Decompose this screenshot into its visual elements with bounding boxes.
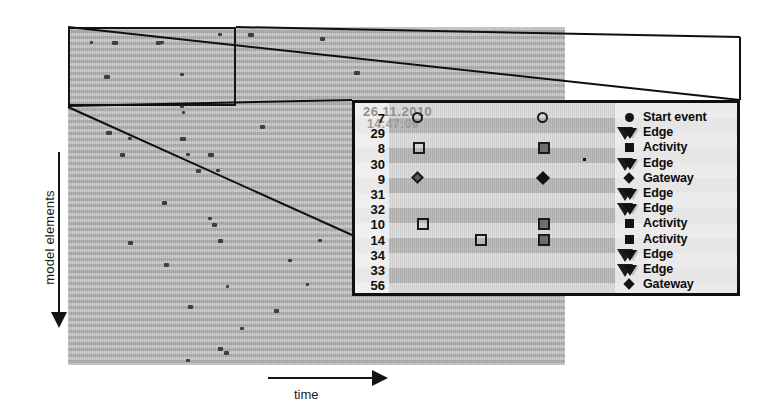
overview-point (318, 239, 322, 242)
legend-item[interactable]: Edge (621, 156, 740, 171)
detail-row-label: 34 (355, 248, 385, 263)
x-axis-label: time (294, 387, 319, 402)
marker-square-icon (538, 142, 550, 154)
overview-point (186, 359, 190, 362)
legend-item[interactable]: Edge (621, 201, 740, 216)
overview-point (162, 201, 167, 205)
detail-row-label: 32 (355, 202, 385, 217)
overview-point (226, 285, 229, 288)
marker-dot-icon (583, 158, 586, 161)
legend-item[interactable]: Activity (621, 216, 740, 231)
legend-item-label: Edge (643, 262, 673, 277)
diamond-filled-icon (623, 171, 639, 186)
marker-circle-icon (412, 112, 423, 123)
triangle-down-filled-icon (623, 125, 639, 140)
detail-row-label: 29 (355, 126, 385, 141)
overview-point (212, 223, 217, 227)
detail-row-label: 8 (355, 141, 385, 156)
detail-zoom-panel[interactable]: 26.11.2010 14:47:09 72983093132101434335… (352, 100, 740, 296)
overview-point (208, 217, 212, 220)
legend-item-label: Edge (643, 156, 673, 171)
marker-square-icon (417, 218, 429, 230)
overview-point (208, 153, 214, 157)
diamond-filled-icon (623, 277, 639, 292)
overview-point (224, 351, 229, 355)
y-axis-label: model elements (42, 163, 57, 313)
legend-item-label: Edge (643, 125, 673, 140)
overview-point (196, 169, 201, 173)
legend-item[interactable]: Start event (621, 110, 740, 125)
legend-item-label: Activity (643, 140, 687, 155)
legend-glyph-shape (625, 113, 634, 122)
square-filled-icon (623, 216, 639, 231)
legend-glyph-shape (623, 128, 637, 139)
overview-point (240, 327, 244, 330)
overview-point (274, 309, 279, 313)
legend-item[interactable]: Gateway (621, 171, 740, 186)
overview-point (260, 125, 265, 129)
legend-glyph-shape (623, 159, 637, 170)
overview-point (320, 37, 325, 41)
legend-item-label: Gateway (643, 277, 694, 292)
legend-item-label: Gateway (643, 171, 694, 186)
legend-item[interactable]: Edge (621, 186, 740, 201)
triangle-down-filled-icon (623, 201, 639, 216)
overview-point (186, 153, 190, 156)
detail-row-label: 14 (355, 233, 385, 248)
overview-point (188, 305, 193, 309)
overview-point (180, 137, 186, 141)
detail-row-label: 30 (355, 157, 385, 172)
circle-filled-icon (623, 110, 639, 125)
legend-glyph-shape (623, 172, 634, 183)
legend-glyph-shape (625, 143, 634, 152)
detail-row-label: 31 (355, 187, 385, 202)
y-axis-line (58, 152, 60, 318)
legend-glyph-shape (623, 250, 637, 261)
legend-glyph-shape (623, 189, 637, 200)
overview-point (128, 137, 132, 140)
x-axis-line (268, 377, 374, 379)
legend-item[interactable]: Activity (621, 140, 740, 155)
overview-point (182, 111, 185, 114)
square-filled-icon (623, 232, 639, 247)
overview-point (128, 241, 133, 245)
legend-item[interactable]: Edge (621, 125, 740, 140)
x-axis: time (268, 369, 418, 409)
y-axis-arrow-icon (51, 312, 67, 328)
legend-item-label: Edge (643, 201, 673, 216)
marker-square-icon (538, 234, 550, 246)
overview-point (354, 71, 360, 75)
overview-point (218, 239, 223, 243)
triangle-down-filled-icon (623, 262, 639, 277)
legend-item[interactable]: Edge (621, 247, 740, 262)
triangle-down-filled-icon (623, 156, 639, 171)
legend-glyph-shape (623, 204, 637, 215)
overview-point (106, 131, 112, 135)
zoom-selection-rectangle[interactable] (68, 27, 236, 106)
legend-item-label: Edge (643, 247, 673, 262)
detail-row-label: 9 (355, 172, 385, 187)
triangle-down-filled-icon (623, 186, 639, 201)
detail-row-label: 7 (355, 111, 385, 126)
marker-square-icon (475, 234, 487, 246)
legend-item-label: Edge (643, 186, 673, 201)
legend-item-label: Activity (643, 232, 687, 247)
marker-square-icon (413, 142, 425, 154)
detail-row-label: 10 (355, 217, 385, 232)
overview-point (218, 347, 223, 351)
detail-row-label: 56 (355, 278, 385, 293)
overview-point (120, 153, 125, 157)
legend-glyph-shape (623, 279, 634, 290)
legend-item[interactable]: Gateway (621, 277, 740, 292)
marker-square-icon (538, 218, 550, 230)
overview-point (306, 283, 309, 286)
legend-item-label: Start event (643, 110, 707, 125)
overview-point (216, 169, 220, 172)
legend-glyph-shape (625, 235, 634, 244)
overview-point (248, 33, 254, 37)
y-axis: model elements (24, 152, 68, 336)
legend-glyph-shape (623, 265, 637, 276)
legend-item[interactable]: Activity (621, 232, 740, 247)
legend-glyph-shape (625, 219, 634, 228)
legend-item[interactable]: Edge (621, 262, 740, 277)
